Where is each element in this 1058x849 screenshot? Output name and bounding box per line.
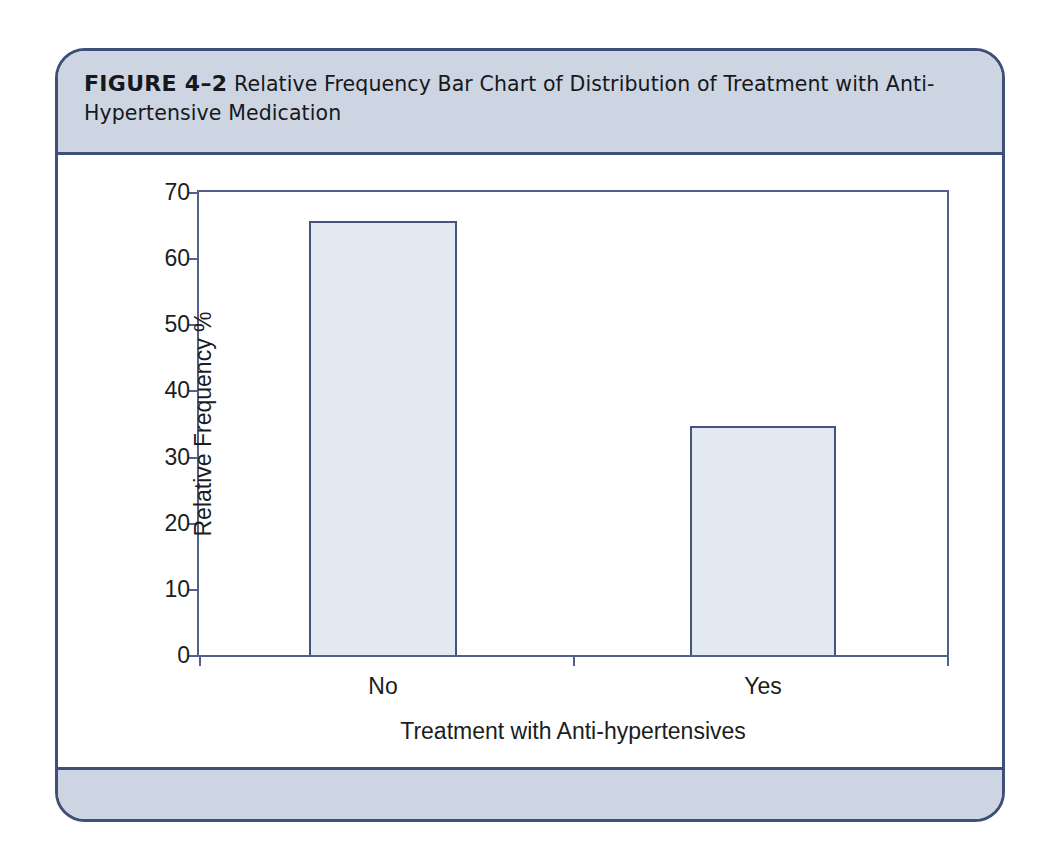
y-axis-title: Relative Frequency % <box>190 311 217 536</box>
chart-canvas: 010203040506070 NoYes Treatment with Ant… <box>58 155 1002 773</box>
figure-frame: FIGURE 4–2 Relative Frequency Bar Chart … <box>55 48 1005 822</box>
y-tick-label-30: 30 <box>164 443 190 470</box>
figure-caption-band: FIGURE 4–2 Relative Frequency Bar Chart … <box>58 51 1002 155</box>
figure-footer-band <box>58 767 1002 819</box>
x-tick-label-no: No <box>368 673 397 700</box>
figure-number-label: FIGURE 4–2 <box>84 71 227 96</box>
y-tick-label-0: 0 <box>177 642 190 669</box>
y-tick-label-10: 10 <box>164 575 190 602</box>
bar-no <box>309 221 457 655</box>
y-tick-label-20: 20 <box>164 509 190 536</box>
x-tick-2 <box>947 655 949 666</box>
y-tick-label-70: 70 <box>164 179 190 206</box>
x-tick-0 <box>199 655 201 666</box>
plot-area: 010203040506070 NoYes Treatment with Ant… <box>197 190 949 657</box>
bar-yes <box>690 426 836 655</box>
y-tick-label-60: 60 <box>164 245 190 272</box>
y-tick-label-40: 40 <box>164 377 190 404</box>
x-tick-1 <box>573 655 575 666</box>
figure-caption: FIGURE 4–2 Relative Frequency Bar Chart … <box>84 69 976 128</box>
x-tick-label-yes: Yes <box>744 673 782 700</box>
y-tick-label-50: 50 <box>164 311 190 338</box>
x-axis-title: Treatment with Anti-hypertensives <box>400 718 746 745</box>
